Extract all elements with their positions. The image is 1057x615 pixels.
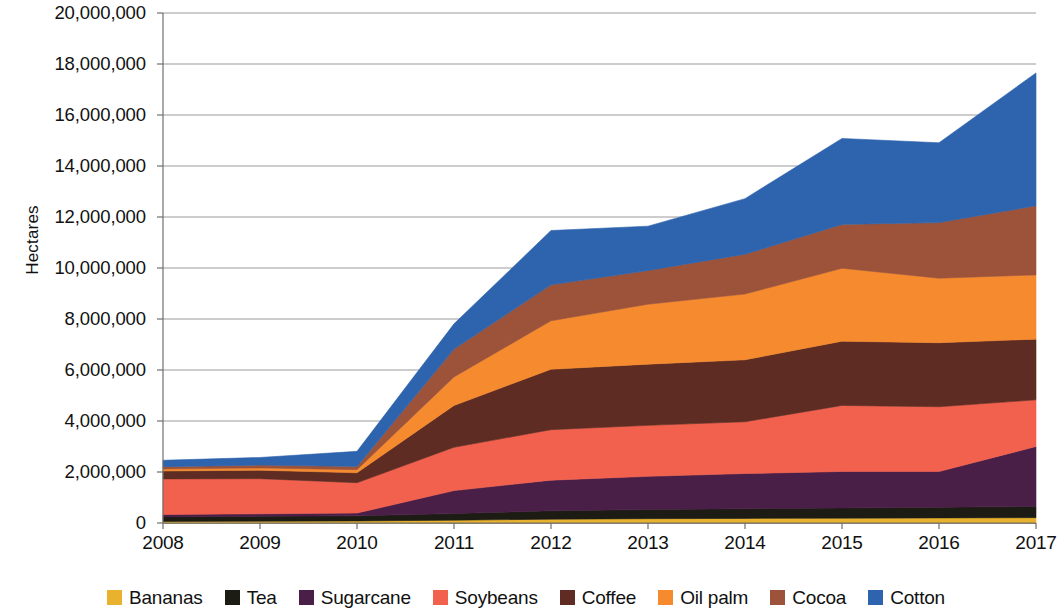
legend-label: Tea xyxy=(247,587,277,609)
x-tick-label: 2013 xyxy=(627,532,668,554)
legend-swatch-icon xyxy=(560,590,575,605)
y-tick-label: 10,000,000 xyxy=(22,257,146,279)
y-tick-label: 2,000,000 xyxy=(22,461,146,483)
legend-swatch-icon xyxy=(107,590,122,605)
area-series-canvas xyxy=(163,13,1036,523)
y-tick-label: 0 xyxy=(22,512,146,534)
legend-label: Oil palm xyxy=(680,587,748,609)
legend-item-soybeans[interactable]: Soybeans xyxy=(433,587,538,609)
legend-item-coffee[interactable]: Coffee xyxy=(560,587,636,609)
x-tick-label: 2009 xyxy=(239,532,280,554)
y-tick-label: 14,000,000 xyxy=(22,155,146,177)
plot-area xyxy=(163,13,1036,523)
legend-item-bananas[interactable]: Bananas xyxy=(107,587,203,609)
legend-item-tea[interactable]: Tea xyxy=(225,587,277,609)
legend-swatch-icon xyxy=(433,590,448,605)
legend-label: Soybeans xyxy=(455,587,538,609)
y-tick-label: 4,000,000 xyxy=(22,410,146,432)
y-tick-label: 20,000,000 xyxy=(22,2,146,24)
legend-swatch-icon xyxy=(658,590,673,605)
legend-label: Coffee xyxy=(582,587,636,609)
x-tick-label: 2015 xyxy=(821,532,862,554)
y-tick-label: 8,000,000 xyxy=(22,308,146,330)
x-tick-label: 2008 xyxy=(142,532,183,554)
x-tick-label: 2017 xyxy=(1015,532,1056,554)
y-tick-label: 18,000,000 xyxy=(22,53,146,75)
legend-label: Cotton xyxy=(890,587,945,609)
legend-swatch-icon xyxy=(225,590,240,605)
y-axis-ticks: 02,000,0004,000,0006,000,0008,000,00010,… xyxy=(14,0,146,540)
chart-legend: BananasTeaSugarcaneSoybeansCoffeeOil pal… xyxy=(0,580,1052,615)
y-tick-label: 16,000,000 xyxy=(22,104,146,126)
x-tick-label: 2011 xyxy=(434,532,474,554)
legend-label: Cocoa xyxy=(792,587,846,609)
legend-item-oil-palm[interactable]: Oil palm xyxy=(658,587,748,609)
legend-item-sugarcane[interactable]: Sugarcane xyxy=(299,587,411,609)
legend-item-cotton[interactable]: Cotton xyxy=(868,587,945,609)
legend-swatch-icon xyxy=(770,590,785,605)
legend-swatch-icon xyxy=(299,590,314,605)
y-tick-label: 12,000,000 xyxy=(22,206,146,228)
y-tick-label: 6,000,000 xyxy=(22,359,146,381)
legend-item-cocoa[interactable]: Cocoa xyxy=(770,587,846,609)
x-tick-label: 2010 xyxy=(336,532,377,554)
legend-swatch-icon xyxy=(868,590,883,605)
x-tick-label: 2014 xyxy=(724,532,765,554)
legend-label: Sugarcane xyxy=(321,587,411,609)
legend-label: Bananas xyxy=(129,587,203,609)
x-tick-label: 2016 xyxy=(918,532,959,554)
x-tick-label: 2012 xyxy=(530,532,571,554)
